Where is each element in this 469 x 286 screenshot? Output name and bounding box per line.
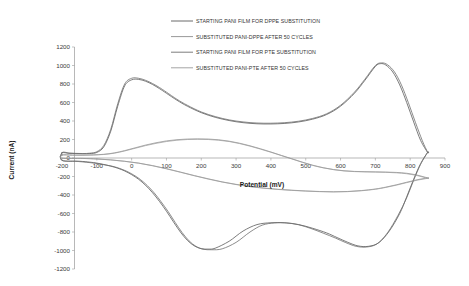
data-curves	[60, 63, 429, 250]
x-axis-title: Potential (mV)	[240, 181, 284, 189]
y-tick-label: -400	[58, 191, 71, 198]
x-tick-label: -200	[56, 162, 69, 169]
y-tick-label: 200	[60, 136, 71, 143]
cyclic-voltammogram-plot: 120010008006004002000-200-400-600-800-10…	[0, 0, 469, 286]
x-tick-label: 700	[370, 162, 381, 169]
y-tick-label: -800	[58, 228, 71, 235]
x-tick-label: 600	[335, 162, 346, 169]
y-tick-label: 600	[60, 99, 71, 106]
legend-label-2: STARTING PANI FILM FOR PTE SUBSTITUTION	[196, 49, 316, 55]
y-tick-label: 1000	[56, 62, 70, 69]
y-tick-label: 800	[60, 80, 71, 87]
y-tick-label: -200	[58, 173, 71, 180]
x-tick-label: 100	[161, 162, 172, 169]
y-tick-label: 1200	[56, 43, 70, 50]
chart-legend: STARTING PANI FILM FOR DPPE SUBSTITUTION…	[171, 18, 320, 71]
y-tick-label: -1200	[54, 265, 70, 272]
legend-label-3: SUBSTITUTED PANI-PTE AFTER 50 CYCLES	[196, 65, 309, 71]
legend-label-0: STARTING PANI FILM FOR DPPE SUBSTITUTION	[196, 18, 320, 24]
y-tick-label: 400	[60, 117, 71, 124]
chart-figure: 120010008006004002000-200-400-600-800-10…	[0, 0, 469, 286]
x-tick-label: 900	[440, 162, 451, 169]
x-tick-label: 400	[266, 162, 277, 169]
series-curve-2	[61, 63, 429, 250]
x-tick-label: 200	[196, 162, 207, 169]
y-axis-title: Current (nA)	[8, 141, 16, 180]
legend-label-1: SUBSTITUTED PANI-DPPE AFTER 50 CYCLES	[196, 34, 313, 40]
y-tick-label: -1000	[54, 247, 70, 254]
x-tick-label: 300	[231, 162, 242, 169]
x-tick-label: 800	[405, 162, 416, 169]
series-curve-0	[60, 64, 428, 250]
y-tick-label: -600	[58, 210, 71, 217]
